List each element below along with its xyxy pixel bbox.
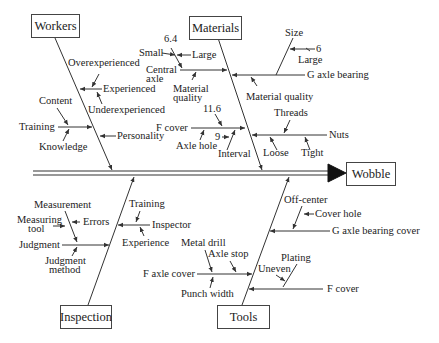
cause-loose: Loose bbox=[263, 148, 289, 158]
cause-axle-stop: Axle stop bbox=[208, 249, 249, 259]
cause-uneven: Uneven bbox=[258, 264, 291, 274]
value-6: 6 bbox=[316, 44, 321, 54]
effect-box: Wobble bbox=[346, 162, 396, 186]
cause-overexperienced: Overexperienced bbox=[68, 58, 140, 68]
category-box-materials: Materials bbox=[189, 16, 242, 40]
cause-cover-hole: Cover hole bbox=[315, 209, 361, 219]
category-label: Inspection bbox=[60, 310, 112, 325]
effect-label: Wobble bbox=[352, 167, 391, 182]
cause-large-2: Large bbox=[298, 55, 322, 65]
category-label: Tools bbox=[230, 310, 258, 325]
cause-f-cover-materials: F cover bbox=[156, 123, 188, 133]
value-6-4: 6.4 bbox=[164, 34, 177, 44]
cause-plating: Plating bbox=[281, 253, 311, 263]
category-box-inspection: Inspection bbox=[60, 305, 112, 329]
category-label: Workers bbox=[34, 19, 76, 34]
category-label: Materials bbox=[192, 21, 239, 36]
cause-training-inspection: Training bbox=[129, 199, 165, 209]
cause-g-axle-bearing: G axle bearing bbox=[307, 70, 369, 80]
cause-errors: Errors bbox=[83, 217, 109, 227]
value-11-6: 11.6 bbox=[203, 104, 221, 114]
cause-interval: Interval bbox=[218, 149, 251, 159]
cause-inspector: Inspector bbox=[152, 220, 191, 230]
cause-judgment-method-2: method bbox=[49, 265, 81, 275]
cause-judgment: Judgment bbox=[19, 240, 60, 250]
cause-nuts: Nuts bbox=[329, 130, 349, 140]
cause-large-1: Large bbox=[192, 50, 216, 60]
cause-off-center: Off-center bbox=[284, 195, 328, 205]
cause-measurement: Measurement bbox=[34, 200, 91, 210]
cause-knowledge: Knowledge bbox=[39, 142, 87, 152]
cause-small: Small bbox=[139, 48, 164, 58]
category-box-workers: Workers bbox=[31, 14, 80, 38]
cause-central-axle-2: axle bbox=[146, 74, 164, 84]
cause-g-axle-bearing-cover: G axle bearing cover bbox=[332, 226, 420, 236]
cause-training: Training bbox=[19, 122, 55, 132]
cause-f-cover-tools: F cover bbox=[327, 284, 359, 294]
cause-experienced: Experienced bbox=[103, 84, 155, 94]
cause-tight: Tight bbox=[301, 148, 323, 158]
fishbone-diagram: Workers Materials Inspection Tools Wobbl… bbox=[0, 0, 439, 343]
cause-content: Content bbox=[39, 96, 72, 106]
cause-size: Size bbox=[285, 28, 303, 38]
cause-measuring-tool-2: tool bbox=[28, 224, 44, 234]
cause-threads: Threads bbox=[274, 108, 308, 118]
cause-f-axle-cover: F axle cover bbox=[143, 269, 195, 279]
cause-material-quality-2: Material quality bbox=[246, 92, 313, 102]
cause-axle-hole: Axle hole bbox=[176, 141, 217, 151]
cause-punch-width: Punch width bbox=[181, 289, 234, 299]
cause-metal-drill: Metal drill bbox=[181, 238, 226, 248]
cause-material-quality-1b: quality bbox=[173, 93, 202, 103]
cause-experience: Experience bbox=[122, 238, 169, 248]
category-box-tools: Tools bbox=[217, 305, 270, 329]
cause-underexperienced: Underexperienced bbox=[88, 105, 165, 115]
